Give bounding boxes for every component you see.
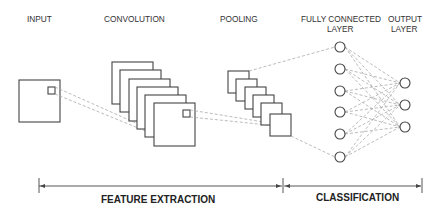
label-pooling: POOLING: [220, 14, 258, 24]
label-input: INPUT: [27, 14, 52, 24]
classification-span: [284, 178, 422, 193]
fc-node: [335, 107, 345, 117]
pooling-feature-maps: [228, 71, 291, 136]
fc-node: [335, 152, 345, 162]
fc-node: [335, 129, 345, 139]
section-feature-extraction: FEATURE EXTRACTION: [101, 194, 215, 205]
fc-node: [335, 86, 345, 96]
fully-connected-nodes: [335, 42, 345, 162]
output-node: [400, 122, 410, 132]
fc-to-output-connections: [345, 47, 400, 157]
label-fully-connected-2: LAYER: [327, 24, 354, 34]
output-nodes: [400, 78, 410, 132]
cnn-architecture-diagram: INPUT CONVOLUTION POOLING FULLY CONNECTE…: [0, 0, 439, 214]
output-node: [400, 78, 410, 88]
output-node: [400, 100, 410, 110]
convolution-feature-maps: [112, 62, 195, 146]
fc-node: [335, 42, 345, 52]
feature-extraction-span: [39, 178, 282, 193]
section-classification: CLASSIFICATION: [316, 192, 399, 203]
fc-node: [335, 64, 345, 74]
label-output-2: LAYER: [391, 24, 418, 34]
label-output-1: OUTPUT: [388, 14, 422, 24]
label-fully-connected-1: FULLY CONNECTED: [301, 14, 381, 24]
input-image: [19, 80, 60, 122]
label-convolution: CONVOLUTION: [104, 14, 165, 24]
